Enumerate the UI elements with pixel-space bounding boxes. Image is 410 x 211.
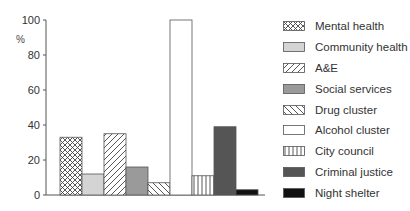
- bar-city-council: [192, 176, 214, 195]
- legend-swatch-icon: [283, 105, 305, 115]
- legend-label: Drug cluster: [315, 104, 377, 116]
- legend-item: Criminal justice: [283, 162, 408, 183]
- bar-community-health: [82, 174, 104, 195]
- legend-label: City council: [315, 145, 374, 157]
- y-tick-label: 80: [28, 49, 40, 61]
- bar-criminal-justice: [214, 127, 236, 195]
- legend-label: Night shelter: [315, 187, 380, 199]
- legend-label: A&E: [315, 62, 338, 74]
- legend-item: A&E: [283, 58, 408, 79]
- y-axis-label: %: [16, 34, 25, 45]
- legend-swatch-icon: [283, 146, 305, 156]
- bar-alcohol-cluster: [170, 20, 192, 195]
- y-tick-label: 100: [22, 14, 40, 26]
- legend-item: Mental health: [283, 16, 408, 37]
- y-tick-label: 20: [28, 154, 40, 166]
- legend-swatch-icon: [283, 188, 305, 198]
- legend-label: Criminal justice: [315, 166, 393, 178]
- legend-swatch-icon: [283, 84, 305, 94]
- y-tick-label: 40: [28, 119, 40, 131]
- legend-item: Social services: [283, 78, 408, 99]
- bar-a-e: [104, 134, 126, 195]
- legend-label: Community health: [315, 41, 408, 53]
- bar-drug-cluster: [148, 183, 170, 195]
- legend-label: Alcohol cluster: [315, 124, 390, 136]
- legend-swatch-icon: [283, 125, 305, 135]
- legend-item: Alcohol cluster: [283, 120, 408, 141]
- bars-group: [60, 20, 258, 195]
- legend-swatch-icon: [283, 167, 305, 177]
- bar-night-shelter: [236, 190, 258, 195]
- legend-swatch-icon: [283, 63, 305, 73]
- legend-item: City council: [283, 141, 408, 162]
- legend-item: Drug cluster: [283, 99, 408, 120]
- legend-swatch-icon: [283, 42, 305, 52]
- legend-label: Social services: [315, 83, 392, 95]
- bar-chart: 020406080100 %: [0, 0, 280, 211]
- legend-label: Mental health: [315, 20, 384, 32]
- legend: Mental health Community health: [283, 16, 408, 203]
- legend-item: Community health: [283, 37, 408, 58]
- bar-social-services: [126, 167, 148, 195]
- bar-mental-health: [60, 137, 82, 195]
- legend-item: Night shelter: [283, 182, 408, 203]
- legend-swatch-icon: [283, 21, 305, 31]
- y-tick-label: 0: [34, 189, 40, 201]
- y-tick-label: 60: [28, 84, 40, 96]
